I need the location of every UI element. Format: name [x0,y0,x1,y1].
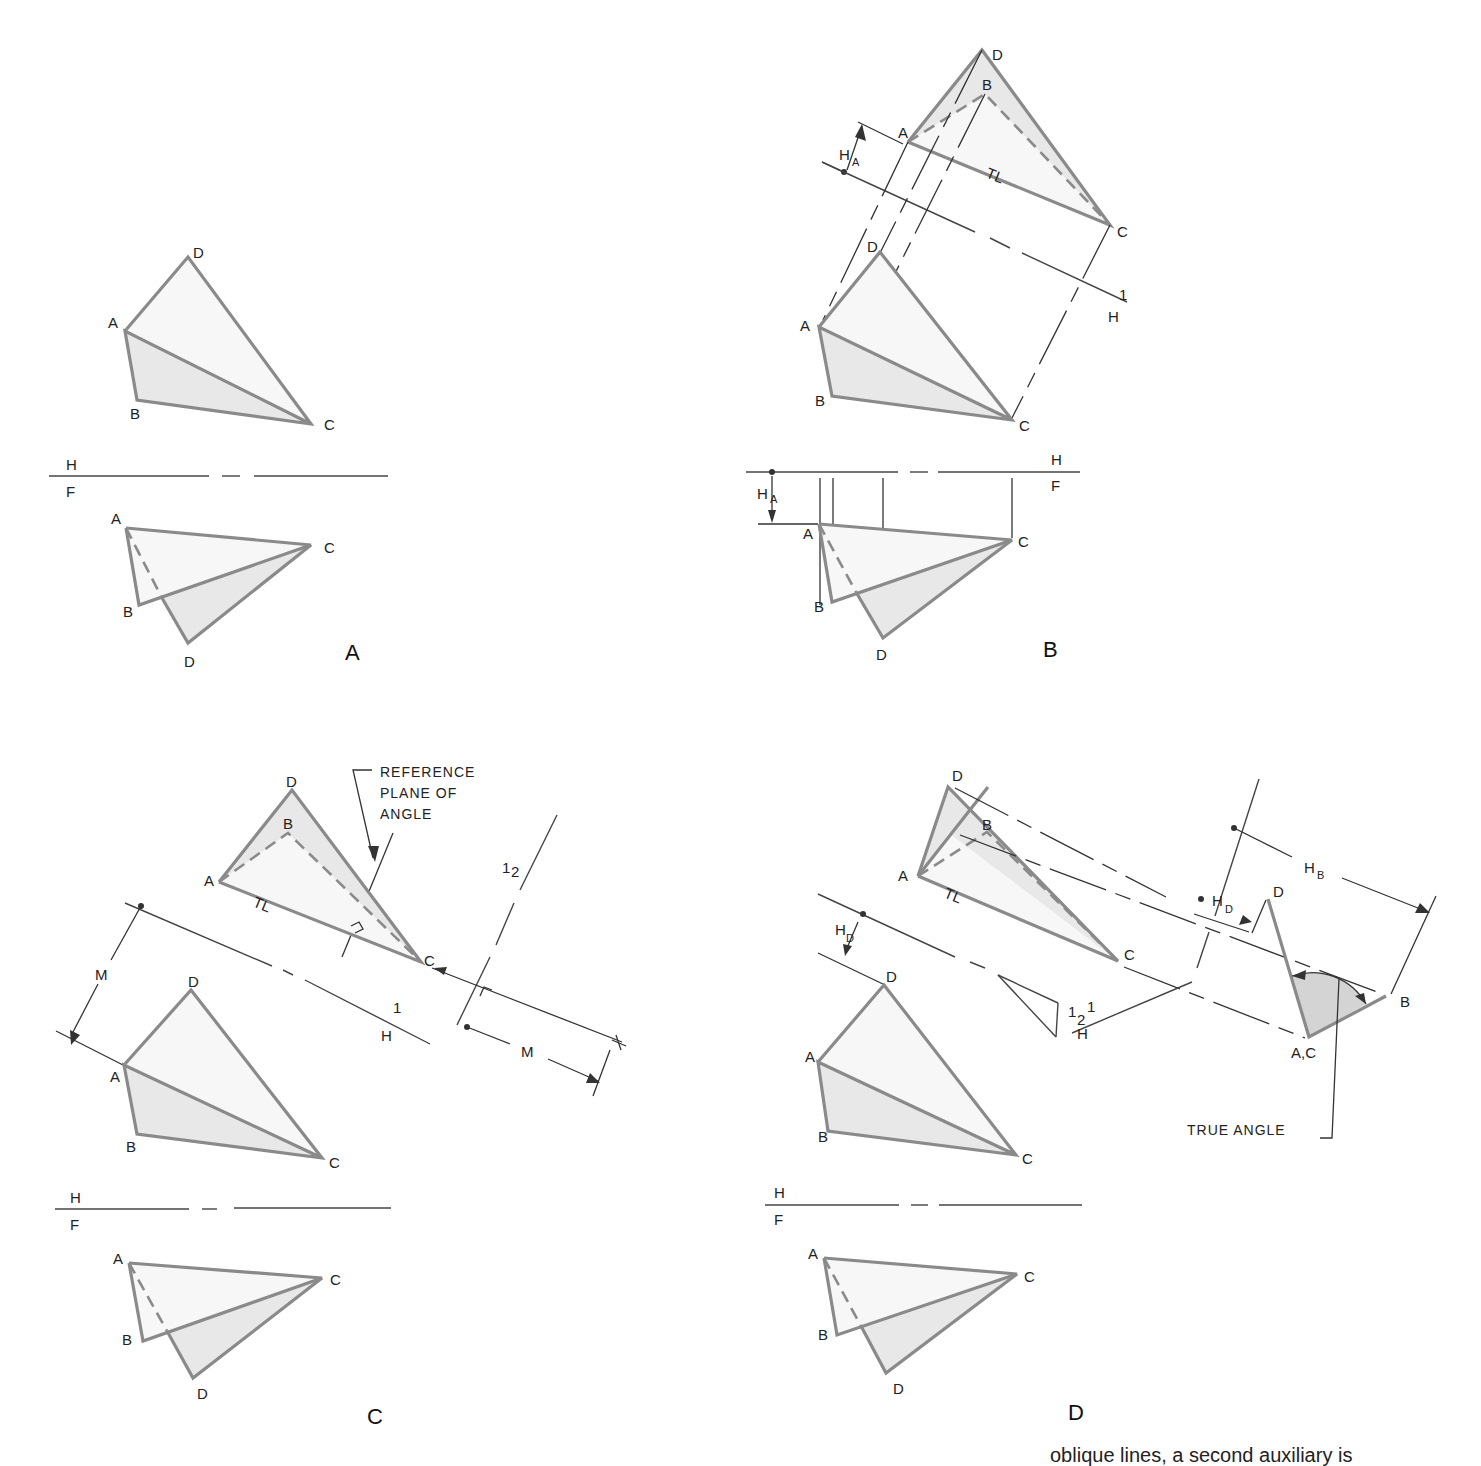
panel-caption-b: B [1043,637,1058,662]
panel-b-top-view: D A B C [800,238,1030,434]
panel-b: D B A C TL H A 1 H [746,46,1128,663]
label-b: B [123,603,133,620]
note-line-1: REFERENCE [380,764,475,780]
panel-c-top-view: D A B C [110,973,340,1171]
label-a: A [113,1250,123,1267]
dim-hd-label: H [1212,892,1223,909]
label-d: D [886,968,897,985]
dim-sub-a: A [770,493,778,505]
panel-a-front-view: A B C D [111,510,335,670]
fold-label-f: F [66,483,75,500]
panel-c-dim-m-left: M [56,906,141,1066]
label-c: C [324,539,335,556]
fold-label-1: 1 [1068,1003,1076,1020]
label-a: A [111,510,121,527]
panel-c: REFERENCE PLANE OF ANGLE D B A C TL 1 [55,764,626,1429]
label-c: C [1018,533,1029,550]
fold-label-h: H [1108,308,1119,325]
dim-sub-d: D [1225,903,1233,915]
label-d: D [193,244,204,261]
true-angle-note: TRUE ANGLE [1187,1122,1286,1138]
label-d: D [893,1380,904,1397]
panel-b-aux-view: D B A C TL H A [822,46,1128,240]
label-c: C [330,1271,341,1288]
dim-h-label: H [757,485,768,502]
fold-label-f: F [70,1216,79,1233]
fold-label-h: H [1051,451,1062,468]
dim-sub-d: D [846,932,854,944]
label-b: B [130,405,140,422]
note-line-3: ANGLE [380,806,432,822]
label-b: B [814,598,824,615]
label-d: D [286,773,297,790]
fold-label-h: H [381,1027,392,1044]
panel-d-fold-line-hf: H F [765,1184,1082,1228]
label-b: B [982,76,992,93]
panel-b-fold-line-hf: H F [746,451,1080,494]
label-d: D [867,238,878,255]
label-c: C [324,416,335,433]
label-d: D [197,1385,208,1402]
caption-text: oblique lines, a second auxiliary is [1050,1446,1352,1466]
label-c: C [1019,417,1030,434]
panel-caption-c: C [367,1404,383,1429]
panel-a-fold-line-hf: H F [49,456,388,500]
label-d: D [952,767,963,784]
label-a: A [808,1245,818,1262]
dim-m-label: M [95,966,108,983]
label-d: D [188,973,199,990]
panel-d-top-view: D A B C [805,968,1033,1167]
label-b: B [815,392,825,409]
figure-caption-fragment: oblique lines, a second auxiliary is [0,1446,1481,1466]
dim-sub-a: A [852,156,860,168]
panel-d-dim-hd-left: H D [818,911,885,985]
label-b: B [122,1331,132,1348]
label-b: B [818,1128,828,1145]
label-b: B [818,1326,828,1343]
fold-label-h: H [70,1189,81,1206]
fold-label-2: 2 [511,863,519,880]
fold-label-1: 1 [1087,998,1095,1015]
panel-d: D B A C TL 1 2 H B [765,767,1436,1425]
fold-label-1: 1 [393,999,401,1016]
fold-label-f: F [1051,477,1060,494]
label-c: C [1024,1268,1035,1285]
panel-a: D A B C H F A B C D A [49,244,388,670]
panel-caption-a: A [345,640,360,665]
panel-d-aux2-view: D B A,C TRUE ANGLE [1187,883,1410,1138]
panel-c-aux-view: D B A C TL [204,773,435,969]
label-c: C [1124,946,1135,963]
panel-b-front-view: H A A B C D [757,469,1029,663]
label-c: C [1022,1150,1033,1167]
label-a: A [803,525,813,542]
fold-label-h: H [66,456,77,473]
label-a: A [204,872,214,889]
label-b: B [283,815,293,832]
dim-h-label: H [839,146,850,163]
dim-m-label: M [521,1043,534,1060]
label-c: C [1117,223,1128,240]
label-b: B [982,816,992,833]
fold-label-h: H [1077,1025,1088,1042]
label-b: B [1400,993,1410,1010]
dim-hb-label: H [1304,859,1315,876]
label-d: D [876,646,887,663]
label-d: D [1273,883,1284,900]
dim-sub-b: B [1317,869,1324,881]
label-a: A [898,867,908,884]
label-a: A [800,317,810,334]
label-a: A [108,314,118,331]
label-a: A [805,1048,815,1065]
label-b: B [126,1138,136,1155]
panel-a-top-view: D A B C [108,244,335,433]
label-a: A [110,1068,120,1085]
panel-caption-d: D [1068,1400,1084,1425]
label-a: A [898,124,908,141]
panel-c-front-view: A B C D [113,1250,341,1402]
label-c: C [329,1154,340,1171]
label-c: C [424,952,435,969]
dim-hd-label: H [835,921,846,938]
label-ac: A,C [1291,1044,1316,1061]
note-line-2: PLANE OF [380,785,457,801]
